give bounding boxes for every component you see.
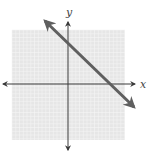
coordinate-plane: x y: [0, 0, 165, 153]
y-axis-label: y: [65, 6, 73, 19]
x-axis-label: x: [140, 78, 147, 91]
